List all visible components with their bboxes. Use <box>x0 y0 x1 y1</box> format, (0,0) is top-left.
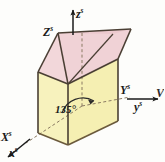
x-axis-label: xs <box>9 146 18 159</box>
z-corner-label-superscript: s <box>50 24 53 33</box>
y-axis-label: ys <box>134 100 142 113</box>
z-axis-label: zs <box>76 7 83 20</box>
x-corner-label-superscript: s <box>9 129 12 138</box>
z-axis-label-superscript: s <box>80 6 83 15</box>
x-corner-label: Xs <box>1 130 12 143</box>
y-corner-label-superscript: s <box>127 82 130 91</box>
angle-label-135: 135° <box>55 104 76 115</box>
cropped-edge-glyph: V <box>156 86 164 101</box>
figure-canvas: zs Zs Ys ys Xs xs 135° V <box>0 0 165 162</box>
y-axis-label-superscript: s <box>139 99 142 108</box>
geometry-diagram-svg <box>0 0 165 162</box>
x-axis-label-superscript: s <box>15 145 18 154</box>
z-corner-label: Zs <box>43 25 53 38</box>
x-corner-label-base: X <box>1 130 9 144</box>
y-corner-label: Ys <box>120 83 130 96</box>
